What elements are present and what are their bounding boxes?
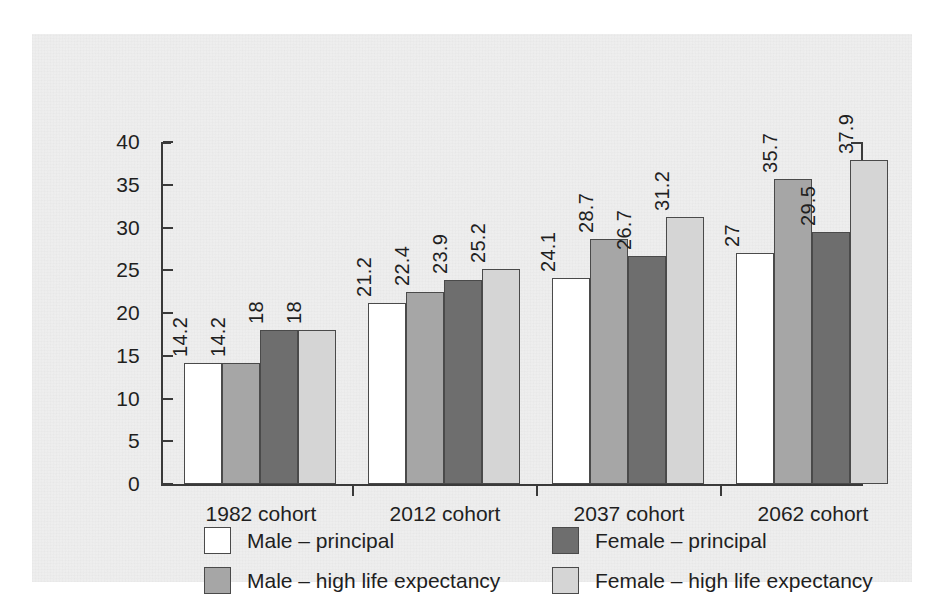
legend-item[interactable]: Female – high life expectancy (552, 567, 873, 594)
y-axis-tick-label: 15 (80, 344, 140, 368)
legend-label: Male – high life expectancy (247, 569, 500, 593)
category-label: 2037 cohort (532, 502, 726, 526)
legend-item[interactable]: Male – principal (204, 527, 394, 554)
y-axis-tick (163, 312, 173, 314)
bar[interactable]: 24.1 (552, 278, 590, 484)
chart-page: 0510152025303540 14.214.2181821.222.423.… (0, 0, 944, 616)
bar[interactable]: 14.2 (184, 363, 222, 484)
bar[interactable]: 18 (298, 330, 336, 484)
legend-swatch-icon (552, 567, 579, 594)
bar-value-label: 35.7 (759, 133, 782, 173)
bar-value-label: 28.7 (575, 192, 598, 232)
bar-value-label: 22.4 (391, 246, 414, 286)
bar-value-label: 29.5 (797, 186, 820, 226)
category-label: 2062 cohort (716, 502, 910, 526)
bar-value-label: 21.2 (353, 257, 376, 297)
y-axis-tick (163, 269, 173, 271)
y-axis-tick-label: 30 (80, 216, 140, 240)
bar-value-label: 14.2 (207, 316, 230, 356)
bar[interactable]: 23.9 (444, 280, 482, 484)
group-separator-tick (352, 486, 354, 496)
bar-group: 14.214.21818 (184, 142, 338, 484)
bar-value-label: 26.7 (613, 210, 636, 250)
y-axis-tick (163, 483, 173, 485)
legend-item[interactable]: Female – principal (552, 527, 767, 554)
bar-value-label: 18 (283, 301, 306, 324)
bar[interactable]: 29.5 (812, 232, 850, 484)
bar[interactable]: 14.2 (222, 363, 260, 484)
bar-value-label: 14.2 (169, 316, 192, 356)
y-axis-tick (163, 398, 173, 400)
scanned-figure-panel: 0510152025303540 14.214.2181821.222.423.… (32, 34, 912, 582)
category-label: 1982 cohort (164, 502, 358, 526)
x-axis-line (161, 484, 863, 486)
y-axis-tick-label: 40 (80, 130, 140, 154)
y-axis-tick-label: 5 (80, 429, 140, 453)
legend-swatch-icon (552, 527, 579, 554)
bar-group: 21.222.423.925.2 (368, 142, 522, 484)
bar[interactable]: 18 (260, 330, 298, 484)
bar[interactable]: 26.7 (628, 256, 666, 484)
bar-value-label: 24.1 (537, 232, 560, 272)
bar[interactable]: 22.4 (406, 292, 444, 484)
y-axis-tick-label: 0 (80, 472, 140, 496)
group-separator-tick (536, 486, 538, 496)
legend-label: Female – principal (595, 529, 767, 553)
bar[interactable]: 27 (736, 253, 774, 484)
legend-item[interactable]: Male – high life expectancy (204, 567, 500, 594)
bar-value-label: 27 (721, 224, 744, 247)
legend-swatch-icon (204, 527, 231, 554)
y-axis-tick (163, 141, 173, 143)
bar-value-label: 37.9 (835, 114, 858, 154)
legend-label: Female – high life expectancy (595, 569, 873, 593)
bar[interactable]: 28.7 (590, 239, 628, 484)
y-axis-tick-label: 20 (80, 301, 140, 325)
bar-value-label: 23.9 (429, 234, 452, 274)
category-label: 2012 cohort (348, 502, 542, 526)
group-separator-tick (720, 486, 722, 496)
bar[interactable]: 31.2 (666, 217, 704, 484)
legend-label: Male – principal (247, 529, 394, 553)
bar-value-label: 25.2 (467, 222, 490, 262)
bar-group: 24.128.726.731.2 (552, 142, 706, 484)
bar-value-label: 31.2 (651, 171, 674, 211)
y-axis-tick-label: 35 (80, 173, 140, 197)
bar[interactable]: 21.2 (368, 303, 406, 484)
y-axis-tick-label: 25 (80, 258, 140, 282)
y-axis-tick (163, 184, 173, 186)
bar-group: 2735.729.537.9 (736, 142, 890, 484)
bar[interactable]: 25.2 (482, 269, 520, 484)
y-axis-tick (163, 227, 173, 229)
bar[interactable]: 37.9 (850, 160, 888, 484)
bar-value-label: 18 (245, 301, 268, 324)
y-axis-tick (163, 440, 173, 442)
y-axis-tick-label: 10 (80, 387, 140, 411)
plot-area: 0510152025303540 14.214.2181821.222.423.… (162, 142, 862, 484)
legend-swatch-icon (204, 567, 231, 594)
